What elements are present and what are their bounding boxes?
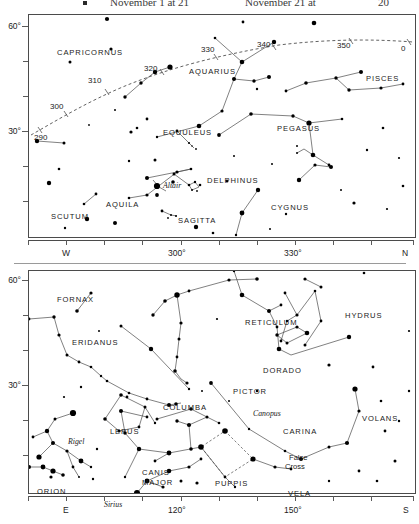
constellation-label-reticulum: RETICULUM bbox=[245, 318, 297, 327]
ecliptic-label-300: 300 bbox=[50, 102, 63, 111]
ecliptic-label-290: 290 bbox=[34, 133, 47, 142]
star-label-rigel: Rigel bbox=[68, 437, 84, 446]
section-divider bbox=[14, 263, 406, 264]
north-xaxis-line bbox=[28, 240, 414, 241]
ecliptic-label-320: 320 bbox=[144, 64, 157, 73]
constellation-label-capricornus: CAPRICORNUS bbox=[57, 48, 123, 57]
asterism-label-cross: Cross bbox=[285, 462, 305, 471]
south-xtick bbox=[28, 496, 29, 501]
south-xtick bbox=[413, 496, 414, 501]
north-xtick bbox=[66, 240, 67, 245]
constellation-label-aquila: AQUILA bbox=[106, 200, 139, 209]
ecliptic-label-350: 350 bbox=[337, 41, 350, 50]
north-xlabel-300: 300° bbox=[168, 248, 186, 258]
ecliptic-label-0: 0 bbox=[401, 44, 405, 53]
north-xtick bbox=[295, 240, 296, 245]
constellation-label-columba: COLUMBA bbox=[163, 403, 207, 412]
ecliptic-label-330: 330 bbox=[201, 45, 214, 54]
north-xtick bbox=[371, 240, 372, 245]
south-ytick bbox=[23, 315, 28, 316]
constellation-label-vela: VELA bbox=[288, 489, 311, 498]
south-xtick bbox=[333, 496, 334, 501]
south-ytick bbox=[23, 350, 28, 351]
north-xtick bbox=[219, 240, 220, 245]
south-xtick bbox=[181, 496, 182, 501]
star-label-canopus: Canopus bbox=[253, 409, 281, 418]
constellation-label-sagitta: SAGITTA bbox=[178, 216, 216, 225]
south-constellation-lines bbox=[29, 271, 359, 493]
south-ytick bbox=[23, 420, 28, 421]
constellation-label-lepus: LEPUS bbox=[110, 427, 139, 436]
south-ylabel-30: 30° bbox=[0, 380, 21, 390]
constellation-label-eridanus: ERIDANUS bbox=[72, 338, 118, 347]
header-date-1: November 1 at 21 bbox=[110, 0, 189, 8]
constellation-label-aquarius: AQUARIUS bbox=[189, 67, 236, 76]
south-xaxis-line bbox=[28, 496, 414, 497]
north-xlabel-330: 330° bbox=[284, 248, 302, 258]
north-xtick bbox=[181, 240, 182, 245]
constellation-label-cygnus: CYGNUS bbox=[271, 203, 309, 212]
north-xtick bbox=[413, 240, 414, 245]
star-label-sirius: Sirius bbox=[104, 500, 122, 509]
constellation-label-fornax: FORNAX bbox=[57, 295, 94, 304]
south-xlabel-e: E bbox=[63, 505, 69, 515]
south-ylabel-60: 60° bbox=[0, 275, 21, 285]
north-ytick bbox=[23, 61, 28, 62]
constellation-label-pictor: PICTOR bbox=[233, 387, 267, 396]
north-ytick bbox=[23, 166, 28, 167]
north-ytick bbox=[22, 26, 28, 27]
constellation-label-major: MAJOR bbox=[142, 478, 173, 487]
south-xtick bbox=[257, 496, 258, 501]
constellation-label-pegasus: PEGASUS bbox=[277, 124, 320, 133]
header-date-2: November 21 at bbox=[245, 0, 316, 8]
south-chart-stars bbox=[29, 271, 410, 493]
south-xlabel-150: 150° bbox=[284, 505, 302, 515]
north-ytick bbox=[23, 96, 28, 97]
north-ytick bbox=[22, 131, 28, 132]
south-xtick bbox=[219, 496, 220, 501]
ecliptic-label-310: 310 bbox=[88, 76, 101, 85]
north-xtick bbox=[333, 240, 334, 245]
north-xtick bbox=[28, 240, 29, 245]
north-ylabel-60: 60° bbox=[0, 21, 21, 31]
constellation-label-volans: VOLANS bbox=[362, 414, 398, 423]
south-chart-starfield bbox=[29, 271, 415, 493]
north-xtick bbox=[104, 240, 105, 245]
north-ytick bbox=[23, 201, 28, 202]
north-xtick bbox=[142, 240, 143, 245]
ecliptic-label-340: 340 bbox=[257, 40, 270, 49]
south-xlabel-s: S bbox=[403, 505, 409, 515]
south-ytick bbox=[22, 280, 28, 281]
constellation-label-dorado: DORADO bbox=[263, 366, 302, 375]
south-xlabel-120: 120° bbox=[168, 505, 186, 515]
south-xtick bbox=[66, 496, 67, 501]
asterism-label-false: False bbox=[289, 453, 308, 462]
south-ytick bbox=[22, 385, 28, 386]
north-xlabel-w: W bbox=[62, 248, 70, 258]
constellation-label-hydrus: HYDRUS bbox=[345, 311, 382, 320]
constellation-label-scutum: SCUTUM bbox=[51, 212, 89, 221]
header-hour: 20 bbox=[378, 0, 389, 8]
constellation-label-pisces: PISCES bbox=[366, 74, 399, 83]
page-header: November 1 at 21 November 21 at 20 bbox=[0, 0, 419, 9]
south-ytick bbox=[23, 455, 28, 456]
constellation-label-puppis: PUPPIS bbox=[215, 479, 248, 488]
south-xtick bbox=[371, 496, 372, 501]
north-ylabel-30: 30° bbox=[0, 126, 21, 136]
north-xlabel-n: N bbox=[402, 248, 408, 258]
star-label-altair: Altair bbox=[163, 181, 181, 190]
constellation-label-carina: CARINA bbox=[283, 427, 317, 436]
constellation-label-equuleus: EQUULEUS bbox=[163, 128, 212, 137]
header-marker-square bbox=[83, 1, 87, 5]
constellation-label-delphinus: DELPHINUS bbox=[207, 176, 259, 185]
north-xtick bbox=[257, 240, 258, 245]
south-xtick bbox=[142, 496, 143, 501]
constellation-label-canis: CANIS bbox=[142, 468, 170, 477]
star-chart-page: November 1 at 21 November 21 at 20 bbox=[0, 0, 419, 524]
constellation-label-orion: ORION bbox=[37, 487, 66, 496]
